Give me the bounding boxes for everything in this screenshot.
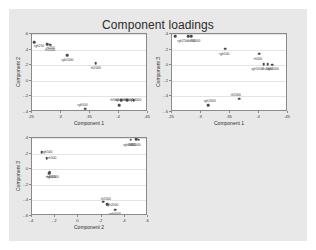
gridline (32, 169, 146, 170)
data-point (190, 35, 193, 38)
y-tick-mark (29, 168, 31, 169)
data-point (137, 138, 140, 141)
data-point (174, 35, 177, 38)
data-point-label: rgh4000 (129, 99, 141, 102)
data-point-label: rh1000 (45, 49, 55, 52)
y-axis-title: Component 2 (15, 57, 21, 87)
y-tick-label: -.4 (158, 93, 168, 98)
y-tick-mark (169, 111, 171, 112)
gridline (172, 81, 286, 82)
x-tick-label: .35 (226, 114, 232, 119)
y-tick-mark (169, 64, 171, 65)
x-axis-title: Component 1 (171, 120, 287, 126)
y-tick-label: -.6 (18, 213, 28, 218)
data-point-label: rgh4000 (109, 213, 121, 215)
y-tick-mark (29, 33, 31, 34)
plot-area: rgh250rh250rh1000rgh1000rh2000rgh500rh50… (31, 33, 147, 111)
data-point-label: rgh1000 (61, 59, 73, 62)
x-tick-label: .3 (58, 114, 62, 119)
x-tick-label: -.4 (29, 218, 34, 223)
gridline (32, 34, 146, 35)
data-point-label: rh2000 (91, 67, 101, 70)
y-tick-mark (29, 95, 31, 96)
y-tick-mark (169, 95, 171, 96)
data-point-label: rh500 (254, 58, 262, 61)
x-tick-label: -.2 (52, 218, 57, 223)
y-tick-label: -.4 (18, 197, 28, 202)
data-point (49, 43, 52, 46)
x-tick-label: .45 (284, 114, 290, 119)
data-point-label: rgh500 (77, 104, 87, 107)
data-point-label: rgh2000 (204, 100, 216, 103)
y-tick-label: .2 (158, 46, 168, 51)
data-point (48, 172, 51, 175)
y-tick-mark (29, 111, 31, 112)
y-tick-mark (169, 33, 171, 34)
x-tick-label: .35 (86, 114, 92, 119)
scatter-panel-component3-vs-component1: rgh250rh250rh1000rgh500rh500rgh1000rh400… (171, 33, 287, 111)
data-point-label: rgh250 (34, 45, 44, 48)
graph-canvas: Component loadings rgh250rh250rh1000rgh1… (9, 9, 307, 241)
x-tick-label: .2 (99, 218, 103, 223)
gridline (32, 65, 146, 66)
x-axis-title: Component 1 (31, 120, 147, 126)
x-tick-label: .4 (122, 218, 126, 223)
scatter-panel-component2-vs-component1: rgh250rh250rh1000rgh1000rh2000rgh500rh50… (31, 33, 147, 111)
y-tick-mark (29, 153, 31, 154)
data-point-label: rh1000 (130, 144, 140, 147)
data-point-label: rgh4000 (267, 68, 279, 71)
data-point (224, 47, 227, 50)
y-tick-mark (29, 64, 31, 65)
gridline (32, 185, 146, 186)
y-tick-label: .4 (18, 46, 28, 51)
data-point (266, 63, 269, 66)
data-point (66, 54, 69, 57)
x-tick-label: .45 (144, 114, 150, 119)
y-tick-mark (169, 49, 171, 50)
scatter-panel-component3-vs-component2: rgh250rh250rh1000rgh500rh500rgh1000rh400… (31, 137, 147, 215)
data-point-label: rh4000 (46, 176, 56, 179)
y-tick-mark (169, 80, 171, 81)
y-tick-label: .2 (18, 150, 28, 155)
x-tick-label: .6 (145, 218, 149, 223)
plot-area: rgh250rh250rh1000rgh500rh500rgh1000rh400… (31, 137, 147, 215)
data-point (95, 62, 98, 65)
gridline (172, 96, 286, 97)
x-axis-title: Component 2 (31, 224, 147, 230)
data-point (84, 108, 87, 111)
y-tick-label: .4 (158, 31, 168, 36)
data-point-label: rgh500 (219, 53, 229, 56)
y-tick-mark (29, 80, 31, 81)
data-point (33, 41, 36, 44)
data-point-label: rh500 (48, 157, 56, 160)
data-point-label: rh2000 (101, 198, 111, 201)
x-tick-label: .25 (168, 114, 174, 119)
y-tick-mark (29, 215, 31, 216)
x-tick-label: .3 (198, 114, 202, 119)
data-point (238, 97, 241, 100)
plot-area: rgh250rh250rh1000rgh500rh500rgh1000rh400… (171, 33, 287, 111)
y-tick-label: -.4 (18, 109, 28, 114)
data-point (271, 64, 274, 67)
x-tick-label: .4 (116, 114, 120, 119)
data-point (262, 63, 265, 66)
x-tick-label: 0 (76, 218, 78, 223)
data-point-label: rgh2000 (106, 204, 118, 207)
y-tick-label: -.2 (18, 93, 28, 98)
y-axis-title: Component 3 (15, 161, 21, 191)
data-point (118, 104, 121, 107)
x-tick-label: .25 (28, 114, 34, 119)
x-tick-label: .4 (256, 114, 260, 119)
y-tick-mark (29, 184, 31, 185)
y-tick-label: .6 (18, 31, 28, 36)
data-point (130, 138, 133, 141)
data-point (114, 208, 117, 211)
gridline (172, 50, 286, 51)
gridline (32, 200, 146, 201)
y-tick-mark (29, 137, 31, 138)
data-point (258, 52, 261, 55)
y-tick-mark (29, 49, 31, 50)
y-axis-title: Component 3 (155, 57, 161, 87)
data-point-label: rh1000 (190, 40, 200, 43)
y-tick-label: .4 (18, 135, 28, 140)
